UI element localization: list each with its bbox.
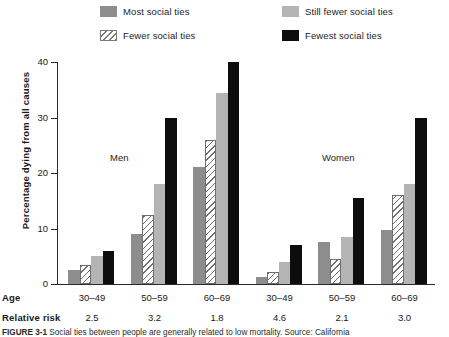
age-value-2: 60–69 [186, 292, 248, 303]
bar-group-men-60-69 [190, 62, 242, 284]
legend-item-fewest-social-ties: Fewest social ties [282, 30, 382, 41]
bar-fewest-social-ties [290, 245, 302, 284]
bar-group-men-50-59 [128, 62, 180, 284]
legend-swatch-still-fewer-social-ties [282, 6, 299, 17]
age-value-3: 30–49 [249, 292, 311, 303]
bar-still-fewer-social-ties [91, 256, 103, 284]
bar-group-women-50-59 [315, 62, 367, 284]
bar-fewest-social-ties [165, 118, 177, 285]
age-row-values: 30–4950–5960–6930–4950–5960–69 [58, 292, 436, 304]
panel-label-men: Men [110, 152, 128, 163]
bar-most-social-ties [193, 167, 205, 284]
y-axis-label-20: 20 [37, 168, 48, 178]
y-axis-label-0: 0 [43, 279, 48, 289]
legend-label-still-fewer-social-ties: Still fewer social ties [305, 7, 393, 17]
bar-group-women-30-49 [253, 62, 305, 284]
legend-swatch-fewest-social-ties [282, 30, 299, 41]
bar-most-social-ties [131, 234, 143, 284]
bar-most-social-ties [318, 242, 330, 284]
bar-fewer-social-ties [142, 215, 154, 284]
bar-most-social-ties [68, 270, 80, 284]
bar-fewer-social-ties [330, 259, 342, 284]
chart-legend: Most social ties Still fewer social ties… [0, 4, 449, 46]
relative-risk-value-5: 3.0 [374, 312, 436, 323]
legend-item-most-social-ties: Most social ties [100, 6, 190, 17]
y-axis-tick-30 [51, 118, 57, 119]
age-row-header: Age [2, 292, 21, 303]
bar-still-fewer-social-ties [279, 262, 291, 284]
relative-risk-value-3: 4.6 [249, 312, 311, 323]
relative-risk-value-1: 3.2 [124, 312, 186, 323]
y-axis-label-10: 10 [37, 224, 48, 234]
y-axis-label-40: 40 [37, 57, 48, 67]
legend-label-fewest-social-ties: Fewest social ties [305, 31, 382, 41]
figure-caption-text: Social ties between people are generally… [49, 328, 349, 337]
y-axis-title: Percentage dying from all causes [20, 46, 31, 256]
y-axis-tick-20 [51, 173, 57, 174]
relative-risk-value-0: 2.5 [61, 312, 123, 323]
y-axis-label-30: 30 [37, 113, 48, 123]
age-value-5: 60–69 [374, 292, 436, 303]
bar-fewest-social-ties [228, 62, 240, 284]
bar-fewest-social-ties [415, 118, 427, 285]
bar-fewest-social-ties [103, 251, 115, 284]
age-value-4: 50–59 [311, 292, 373, 303]
legend-item-fewer-social-ties: Fewer social ties [100, 30, 195, 41]
figure-caption-label: FIGURE 3-1 [2, 328, 47, 337]
legend-item-still-fewer-social-ties: Still fewer social ties [282, 6, 393, 17]
relative-risk-value-2: 1.8 [186, 312, 248, 323]
legend-swatch-fewer-social-ties [100, 30, 117, 41]
bar-still-fewer-social-ties [154, 184, 166, 284]
legend-label-most-social-ties: Most social ties [123, 7, 190, 17]
legend-label-fewer-social-ties: Fewer social ties [123, 31, 195, 41]
x-axis-line [57, 284, 435, 285]
age-value-0: 30–49 [61, 292, 123, 303]
bar-fewer-social-ties [205, 140, 217, 284]
relative-risk-row-values: 2.53.21.84.62.13.0 [58, 312, 436, 324]
bar-fewer-social-ties [80, 265, 92, 284]
bar-still-fewer-social-ties [216, 93, 228, 284]
bar-still-fewer-social-ties [404, 184, 416, 284]
age-value-1: 50–59 [124, 292, 186, 303]
bar-fewer-social-ties [392, 195, 404, 284]
panel-label-women: Women [322, 152, 355, 163]
bar-groups [58, 62, 435, 284]
bar-fewer-social-ties [267, 272, 279, 284]
bar-group-women-60-69 [378, 62, 430, 284]
y-axis-tick-0 [51, 284, 57, 285]
y-axis-tick-10 [51, 229, 57, 230]
legend-swatch-most-social-ties [100, 6, 117, 17]
figure-caption: FIGURE 3-1 Social ties between people ar… [2, 328, 449, 337]
plot-area: 010203040 [57, 62, 435, 285]
bar-most-social-ties [381, 230, 393, 284]
bar-group-men-30-49 [65, 62, 117, 284]
bar-still-fewer-social-ties [341, 237, 353, 284]
relative-risk-value-4: 2.1 [311, 312, 373, 323]
relative-risk-row-header: Relative risk [2, 312, 61, 323]
bar-fewest-social-ties [353, 198, 365, 284]
bar-most-social-ties [256, 277, 268, 284]
y-axis-tick-40 [51, 62, 57, 63]
